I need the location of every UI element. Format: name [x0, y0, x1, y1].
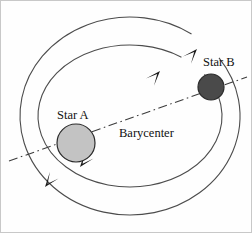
star-b-body	[198, 74, 224, 100]
outer-orbit-path	[20, 17, 240, 215]
inner-orbit-arrow-upper-right	[146, 71, 160, 86]
star-b-group	[198, 74, 224, 100]
star-a-body	[57, 124, 95, 162]
star-a-group	[57, 124, 95, 162]
binary-star-diagram: Star A Star B Barycenter	[0, 0, 252, 233]
star-b-label: Star B	[203, 55, 235, 69]
orbit-group	[20, 17, 240, 215]
barycenter-label: Barycenter	[119, 126, 175, 140]
outer-orbit-arrow-upper-right	[183, 49, 197, 64]
diagram-canvas: Star A Star B Barycenter	[1, 1, 252, 233]
star-a-label: Star A	[57, 108, 89, 122]
outer-orbit-arrow-lower-left	[45, 172, 58, 187]
